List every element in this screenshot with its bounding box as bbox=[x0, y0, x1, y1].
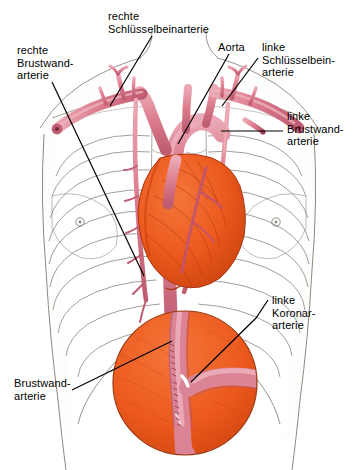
label-linke-schluesselbeinarterie: linke Schlüsselbein- arterie bbox=[262, 41, 335, 79]
label-brustwandarterie: Brustwand- arterie bbox=[14, 377, 71, 402]
label-aorta: Aorta bbox=[218, 41, 245, 54]
left-thoracic-artery-stub bbox=[245, 120, 266, 135]
label-rechte-brustwandarterie: rechte Brustwand- arterie bbox=[17, 44, 74, 82]
label-linke-koronararterie: linke Koronar- arterie bbox=[272, 294, 316, 332]
label-linke-brustwandarterie: linke Brustwand- arterie bbox=[287, 110, 344, 148]
heart bbox=[138, 154, 245, 290]
anatomy-figure: rechte Schlüsselbeinarterie Aorta linke … bbox=[0, 0, 356, 470]
label-rechte-schluesselbeinarterie: rechte Schlüsselbeinarterie bbox=[108, 10, 209, 35]
